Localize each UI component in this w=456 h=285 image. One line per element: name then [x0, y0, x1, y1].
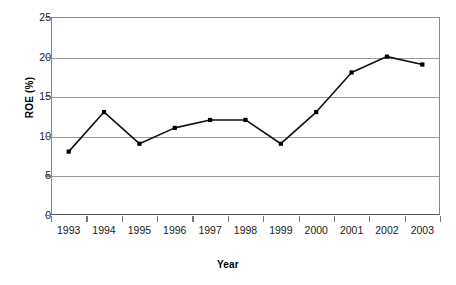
gridline	[52, 97, 439, 98]
x-tick-mark	[122, 216, 123, 222]
x-tick-mark	[157, 216, 158, 222]
gridline	[52, 176, 439, 177]
y-tick-mark	[45, 17, 51, 18]
x-tick-mark	[192, 216, 193, 222]
x-tick-label: 1993	[57, 224, 80, 236]
x-tick-label: 1997	[198, 224, 221, 236]
x-tick-label: 1998	[234, 224, 257, 236]
y-tick-mark	[45, 175, 51, 176]
y-axis: 0510152025	[0, 0, 51, 285]
x-tick-mark	[440, 216, 441, 222]
x-tick-mark	[334, 216, 335, 222]
x-tick-label: 1995	[128, 224, 151, 236]
x-tick-mark	[405, 216, 406, 222]
x-tick-mark	[86, 216, 87, 222]
x-tick-label: 1996	[163, 224, 186, 236]
y-tick-mark	[45, 57, 51, 58]
x-tick-label: 1994	[92, 224, 115, 236]
x-tick-label: 2002	[375, 224, 398, 236]
gridline	[52, 137, 439, 138]
x-tick-mark	[369, 216, 370, 222]
x-tick-label: 2003	[411, 224, 434, 236]
x-tick-mark	[263, 216, 264, 222]
roe-line-chart: ROE (%) 0510152025 199319941995199619971…	[0, 0, 456, 285]
x-tick-mark	[51, 216, 52, 222]
x-tick-label: 2001	[340, 224, 363, 236]
y-tick-mark	[45, 96, 51, 97]
x-tick-label: 2000	[305, 224, 328, 236]
x-axis-title: Year	[0, 259, 456, 270]
x-tick-label: 1999	[269, 224, 292, 236]
y-tick-mark	[45, 136, 51, 137]
gridline	[52, 58, 439, 59]
x-tick-mark	[299, 216, 300, 222]
x-tick-mark	[228, 216, 229, 222]
plot-area	[51, 17, 440, 215]
